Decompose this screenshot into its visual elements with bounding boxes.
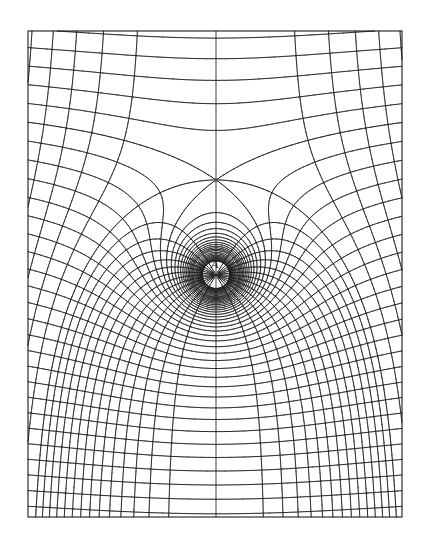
flow-line bbox=[28, 31, 402, 83]
point-label-a: A bbox=[210, 258, 219, 271]
equipotential-line bbox=[28, 104, 402, 313]
flow-line bbox=[28, 31, 402, 278]
equipotential-line bbox=[28, 506, 402, 514]
equipotential-line bbox=[28, 413, 402, 432]
flow-line bbox=[28, 31, 402, 345]
field-diagram: A bbox=[0, 0, 431, 552]
equipotential-line bbox=[28, 366, 402, 397]
source-point-a bbox=[214, 273, 217, 276]
equipotential-line bbox=[28, 475, 402, 485]
equipotential-line bbox=[28, 491, 402, 500]
equipotential-line bbox=[28, 66, 402, 308]
equipotential-line bbox=[28, 397, 402, 419]
